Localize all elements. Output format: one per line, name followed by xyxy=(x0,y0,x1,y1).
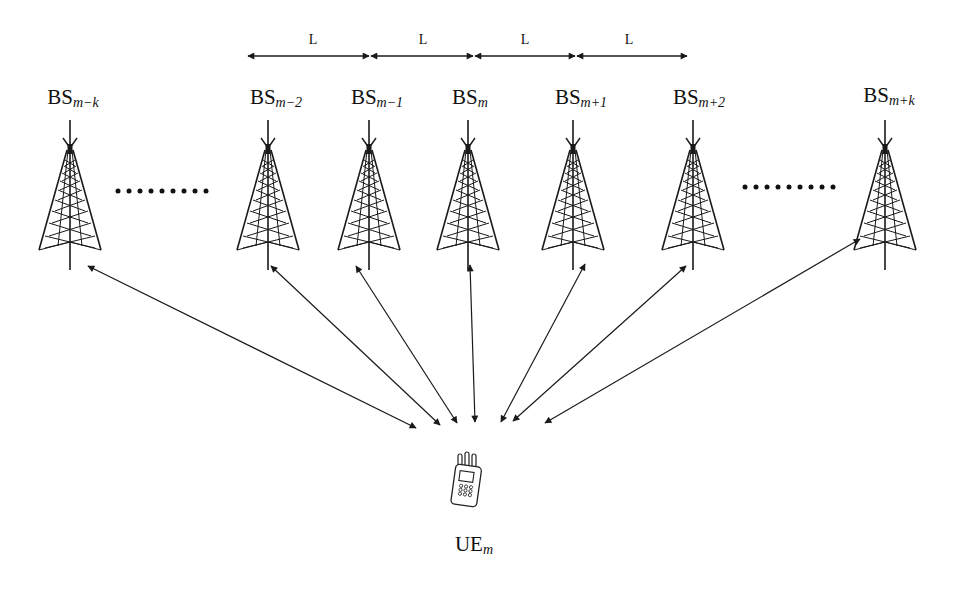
ellipsis-dot xyxy=(776,185,781,190)
label-bs-m+k: BSm+k xyxy=(863,85,914,108)
ue-label-sub: m xyxy=(483,542,493,557)
link-arrow-bs-m-k xyxy=(88,266,416,428)
link-arrow-bs-m+1 xyxy=(501,264,585,422)
ellipsis-dot xyxy=(204,189,209,194)
label-sub: m+2 xyxy=(699,95,726,110)
ellipsis-dot xyxy=(138,189,143,194)
spacing-label-1: L xyxy=(419,32,428,48)
link-arrow-bs-m-1 xyxy=(356,266,457,423)
ellipsis-dot xyxy=(798,185,803,190)
label-sub: m+k xyxy=(889,93,915,108)
ue-handset-icon xyxy=(451,452,482,507)
link-arrow-bs-m xyxy=(470,265,475,422)
label-base: BS xyxy=(555,85,581,109)
ellipsis-dot xyxy=(182,189,187,194)
ellipsis-dot xyxy=(820,185,825,190)
link-arrow-bs-m+k xyxy=(545,239,860,423)
label-base: BS xyxy=(673,85,699,109)
spacing-label-3: L xyxy=(625,32,634,48)
label-bs-m+2: BSm+2 xyxy=(673,87,725,110)
label-base: BS xyxy=(351,85,377,109)
label-base: BS xyxy=(47,85,73,109)
label-bs-m-k: BSm−k xyxy=(47,87,98,110)
label-sub: m+1 xyxy=(581,95,608,110)
label-sub: m xyxy=(478,95,488,110)
label-base: BS xyxy=(452,85,478,109)
label-bs-m-2: BSm−2 xyxy=(250,87,302,110)
ellipsis-dot xyxy=(149,189,154,194)
label-bs-m: BSm xyxy=(452,87,488,110)
tower-icon-bs-m+2 xyxy=(662,120,724,270)
tower-icon-bs-m+k xyxy=(854,120,916,270)
ellipsis-dot xyxy=(765,185,770,190)
ellipsis-dot xyxy=(160,189,165,194)
tower-icon-bs-m xyxy=(437,120,499,270)
label-base: BS xyxy=(863,83,889,107)
tower-icon-bs-m-2 xyxy=(237,120,299,270)
label-base: BS xyxy=(250,85,276,109)
ellipsis-0 xyxy=(116,189,209,194)
label-bs-m+1: BSm+1 xyxy=(555,87,607,110)
link-arrow-bs-m-2 xyxy=(271,266,440,425)
base-station-towers xyxy=(39,120,916,270)
ellipsis-dot xyxy=(787,185,792,190)
ellipsis-dot xyxy=(171,189,176,194)
tower-icon-bs-m-1 xyxy=(338,120,400,270)
ellipsis-dot xyxy=(754,185,759,190)
link-arrow-bs-m+2 xyxy=(513,266,686,421)
spacing-label-2: L xyxy=(521,32,530,48)
ellipsis-dot xyxy=(116,189,121,194)
ue-label: UEm xyxy=(455,534,493,557)
ue-label-base: UE xyxy=(455,532,483,556)
ellipsis-dot xyxy=(831,185,836,190)
ellipsis-dot xyxy=(809,185,814,190)
ellipsis-dot xyxy=(743,185,748,190)
label-sub: m−1 xyxy=(377,95,404,110)
ellipsis-dot xyxy=(193,189,198,194)
label-sub: m−2 xyxy=(276,95,303,110)
label-sub: m−k xyxy=(73,95,99,110)
label-bs-m-1: BSm−1 xyxy=(351,87,403,110)
ellipsis-1 xyxy=(743,185,836,190)
bs-ue-links xyxy=(88,239,860,428)
tower-icon-bs-m-k xyxy=(39,120,101,270)
spacing-label-0: L xyxy=(309,32,318,48)
ellipsis-dot xyxy=(127,189,132,194)
tower-icon-bs-m+1 xyxy=(542,120,604,270)
